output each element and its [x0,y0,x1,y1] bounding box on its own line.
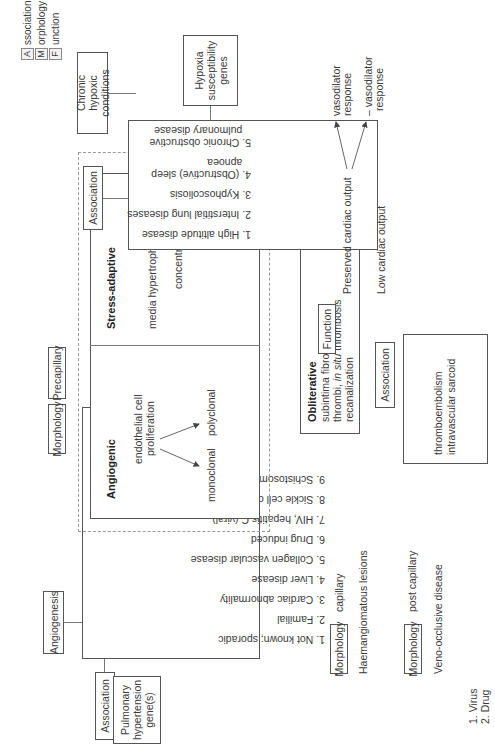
clonal-arrows [160,424,199,466]
arrow-to-polyclonal-icon [160,424,199,439]
vasodilator-arrows [336,122,366,169]
diagram-canvas: Angiogenesis Association Pulmonary hyper… [0,0,495,754]
arrow-to-minus-response-icon [352,122,366,169]
arrow-to-plus-response-icon [336,122,347,169]
arrows-overlay [0,0,495,754]
arrow-to-monoclonal-icon [160,449,199,466]
